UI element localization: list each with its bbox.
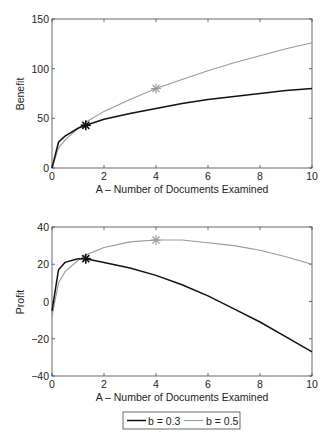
asterisk-marker-icon [151,235,161,245]
x-tick-label: 6 [205,170,211,182]
profit-plot-series [52,235,312,352]
series-line [52,43,312,168]
x-tick-label: 2 [101,378,107,390]
asterisk-marker-icon [151,84,161,94]
y-tick-label: 150 [31,13,49,25]
y-tick-label: −40 [31,370,49,382]
benefit-plot-series [52,43,312,168]
profit-plot: 0246810−40−2002040 A – Number of Documen… [14,221,318,403]
profit-plot-ticks: 0246810−40−2002040 [31,221,318,390]
y-tick-label: 50 [37,112,49,124]
x-tick-label: 0 [49,170,55,182]
legend-label-b03: b = 0.3 [148,415,181,427]
y-tick-label: 20 [37,258,49,270]
x-tick-label: 10 [306,378,318,390]
x-tick-label: 4 [153,170,159,182]
y-tick-label: −20 [31,333,49,345]
x-tick-label: 0 [49,378,55,390]
y-tick-label: 40 [37,221,49,233]
y-tick-label: 0 [43,162,49,174]
benefit-plot: 0246810050100150 A – Number of Documents… [14,13,318,195]
x-tick-label: 2 [101,170,107,182]
benefit-plot-frame [52,19,312,168]
y-tick-label: 100 [31,63,49,75]
x-tick-label: 6 [205,378,211,390]
benefit-plot-ticks: 0246810050100150 [31,13,318,182]
legend: b = 0.3 b = 0.5 [123,412,240,429]
series-line [52,240,312,316]
profit-y-axis-label: Profit [14,290,26,315]
benefit-y-axis-label: Benefit [14,78,26,111]
profit-x-axis-label: A – Number of Documents Examined [96,391,269,403]
legend-label-b05: b = 0.5 [206,415,239,427]
series-line [52,259,312,352]
asterisk-marker-icon [81,120,91,130]
x-tick-label: 10 [306,170,318,182]
benefit-x-axis-label: A – Number of Documents Examined [96,183,269,195]
x-tick-label: 8 [257,170,263,182]
asterisk-marker-icon [81,254,91,264]
series-line [52,89,312,169]
x-tick-label: 8 [257,378,263,390]
figure: 0246810050100150 A – Number of Documents… [0,0,334,445]
y-tick-label: 0 [43,296,49,308]
profit-plot-frame [52,227,312,376]
x-tick-label: 4 [153,378,159,390]
